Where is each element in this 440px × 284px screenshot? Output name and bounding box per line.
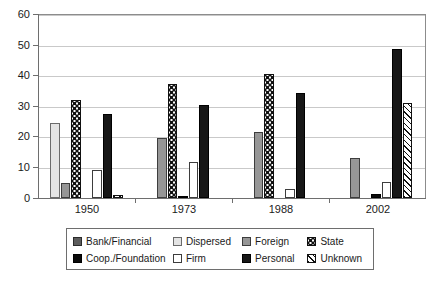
y-tick-label: 0 [4,192,30,204]
legend-item-coop-foundation[interactable]: Coop./Foundation [73,253,173,264]
legend-label: Firm [186,253,206,264]
legend-swatch-firm-icon [173,254,182,263]
bar[interactable] [50,123,60,198]
legend-item-firm[interactable]: Firm [173,253,242,264]
bar[interactable] [157,138,167,198]
legend-label: Bank/Financial [86,236,152,247]
x-tick-label: 1988 [251,203,311,215]
bar[interactable] [178,196,188,198]
legend-swatch-unknown-icon [307,254,316,263]
bars-layer [39,15,425,198]
bar[interactable] [264,74,274,198]
bar[interactable] [71,100,81,198]
legend-item-state[interactable]: State [307,236,367,247]
bar[interactable] [199,105,209,198]
bar-chart: 60 50 40 30 20 10 0 1950 1973 1988 2002 … [0,0,440,284]
bar[interactable] [382,182,392,198]
bar[interactable] [403,103,413,198]
legend-item-unknown[interactable]: Unknown [307,253,367,264]
bar[interactable] [92,170,102,198]
x-tick-label: 1973 [154,203,214,215]
legend-swatch-foreign-icon [242,237,251,246]
y-tick-label: 10 [4,161,30,173]
legend-item-foreign[interactable]: Foreign [242,236,307,247]
x-tick-mark [135,198,136,203]
bar[interactable] [371,194,381,198]
legend-swatch-state-icon [307,237,316,246]
legend-row-1: Bank/Financial Dispersed Foreign State [73,233,367,250]
bar[interactable] [168,84,178,198]
y-tick-label: 30 [4,100,30,112]
legend-item-dispersed[interactable]: Dispersed [173,236,242,247]
bar[interactable] [254,132,264,198]
bar[interactable] [285,189,295,198]
bar-group [136,15,219,198]
legend-item-bank-financial[interactable]: Bank/Financial [73,236,173,247]
x-tick-label: 1950 [57,203,117,215]
bar[interactable] [350,158,360,198]
legend-label: Unknown [320,253,362,264]
bar[interactable] [392,49,402,198]
bar[interactable] [296,93,306,198]
legend-label: Foreign [255,236,289,247]
y-tick-label: 60 [4,8,30,20]
y-tick-label: 20 [4,130,30,142]
legend-label: State [320,236,343,247]
bar[interactable] [103,114,113,198]
legend-swatch-bank-financial-icon [73,237,82,246]
legend-item-personal[interactable]: Personal [242,253,307,264]
bar-group [233,15,316,198]
legend-label: Coop./Foundation [86,253,166,264]
legend-swatch-personal-icon [242,254,251,263]
y-tick-label: 40 [4,69,30,81]
x-tick-label: 2002 [348,203,408,215]
legend: Bank/Financial Dispersed Foreign State C… [66,228,374,270]
legend-row-2: Coop./Foundation Firm Personal Unknown [73,250,367,267]
bar-group [40,15,123,198]
x-tick-mark [329,198,330,203]
legend-swatch-coop-foundation-icon [73,254,82,263]
legend-label: Dispersed [186,236,231,247]
bar-group [329,15,412,198]
bar[interactable] [113,195,123,198]
legend-swatch-dispersed-icon [173,237,182,246]
y-tick-label: 50 [4,39,30,51]
bar[interactable] [61,183,71,198]
legend-label: Personal [255,253,294,264]
x-tick-mark [232,198,233,203]
bar[interactable] [189,162,199,198]
